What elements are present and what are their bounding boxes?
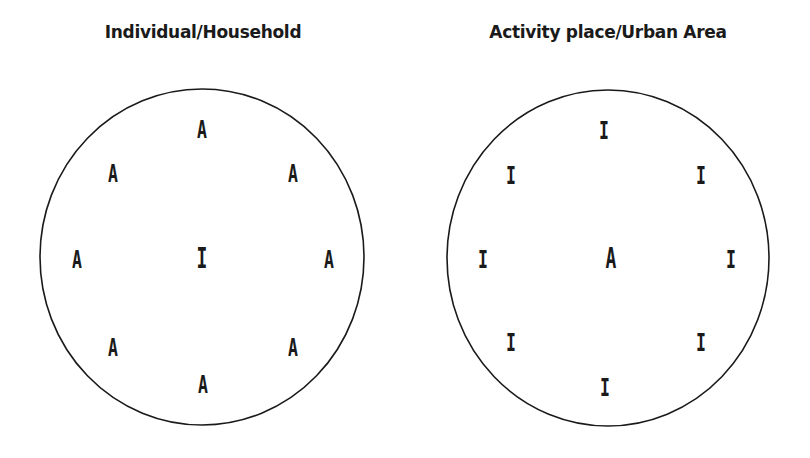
activity-place-marker-outer: A [72, 244, 82, 274]
panel-individual-household: AAAAIAAAA [40, 89, 364, 425]
activity-place-marker-outer: A [288, 158, 298, 188]
diagram-canvas: AAAAIAAAA IIIIAIIII [0, 0, 810, 458]
individual-marker-outer: I [478, 244, 488, 274]
activity-place-marker-outer: A [108, 332, 118, 362]
activity-place-marker-outer: A [197, 114, 207, 144]
activity-place-marker-outer: A [108, 158, 118, 188]
individual-marker-outer: I [599, 115, 609, 145]
individual-marker-outer: I [696, 327, 706, 357]
individual-marker-outer: I [600, 372, 610, 402]
individual-marker-outer: I [726, 244, 736, 274]
individual-marker-outer: I [506, 327, 516, 357]
individual-marker-outer: I [696, 160, 706, 190]
individual-marker-center: I [197, 242, 208, 274]
activity-place-marker-outer: A [198, 369, 208, 399]
individual-marker-outer: I [506, 160, 516, 190]
activity-place-marker-center: A [606, 242, 617, 274]
panel-activity-place-urban-area: IIIIAIIII [447, 90, 769, 426]
activity-place-marker-outer: A [324, 244, 334, 274]
activity-place-marker-outer: A [288, 332, 298, 362]
